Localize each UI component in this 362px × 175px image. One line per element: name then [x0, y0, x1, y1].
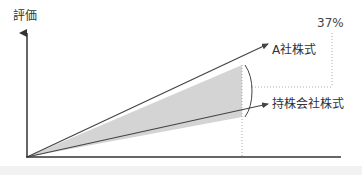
shaded-difference-area	[27, 65, 242, 157]
series-label-a-company-stock: A社株式	[272, 43, 316, 57]
y-axis-label: 評価	[13, 9, 37, 23]
diagram-canvas	[0, 0, 362, 175]
series-label-holding-company-stock: 持株会社株式	[272, 97, 344, 111]
percentage-label: 37%	[317, 16, 344, 30]
bottom-divider-band	[0, 166, 362, 175]
